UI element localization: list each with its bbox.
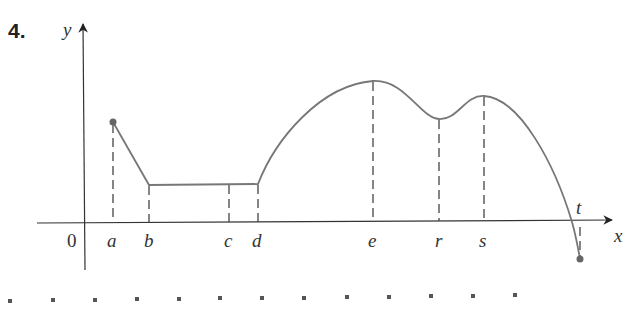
x-axis-label: x: [613, 225, 623, 246]
y-axis-label: y: [61, 19, 72, 40]
y-axis: [83, 24, 85, 270]
dotted-separator: [8, 293, 517, 303]
label-c: c: [224, 230, 233, 251]
graph-figure: 4. y x 0 a b c d e r s t: [0, 0, 641, 322]
origin-label: 0: [67, 230, 77, 251]
label-a: a: [107, 230, 117, 251]
label-e: e: [368, 230, 376, 251]
x-axis: [37, 220, 612, 223]
label-d: d: [252, 230, 262, 251]
problem-number: 4.: [8, 19, 26, 42]
end-point-dot: [577, 256, 584, 263]
label-r: r: [435, 230, 443, 251]
function-curve: [113, 81, 580, 259]
label-s: s: [479, 230, 486, 251]
label-t: t: [576, 197, 582, 218]
label-b: b: [144, 230, 154, 251]
start-point-dot: [110, 119, 117, 126]
